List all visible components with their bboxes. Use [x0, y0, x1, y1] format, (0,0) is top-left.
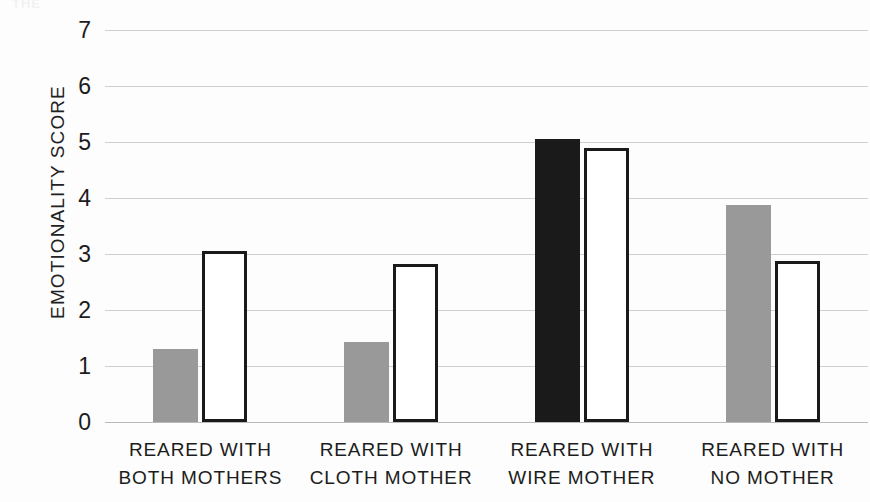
gridline-0: 0	[105, 422, 868, 423]
x-label-line-1: REARED WITH	[129, 439, 272, 460]
x-label-line-1: REARED WITH	[510, 439, 653, 460]
bar-outline-bar-group-1	[202, 251, 247, 422]
x-axis-group-label-4: REARED WITHNO MOTHER	[677, 436, 868, 491]
y-tick-label-0: 0	[78, 411, 91, 434]
x-label-line-2: NO MOTHER	[677, 464, 868, 492]
y-tick-label-7: 7	[78, 19, 91, 42]
x-label-line-2: BOTH MOTHERS	[105, 464, 296, 492]
y-tick-label-3: 3	[78, 243, 91, 266]
x-label-line-1: REARED WITH	[701, 439, 844, 460]
bar-filled-bar-group-4	[726, 205, 771, 422]
gridline-7: 7	[105, 30, 868, 31]
bar-filled-bar-group-3	[535, 139, 580, 422]
x-axis-group-label-1: REARED WITHBOTH MOTHERS	[105, 436, 296, 491]
bar-chart-figure: THE EMOTIONALITY SCORE 01234567 REARED W…	[0, 0, 870, 502]
y-tick-label-6: 6	[78, 75, 91, 98]
y-tick-label-4: 4	[78, 187, 91, 210]
x-axis-labels: REARED WITHBOTH MOTHERSREARED WITHCLOTH …	[105, 436, 868, 498]
x-label-line-2: CLOTH MOTHER	[296, 464, 487, 492]
bar-filled-bar-group-1	[153, 349, 198, 422]
bar-outline-bar-group-2	[393, 264, 438, 422]
x-axis-group-label-3: REARED WITHWIRE MOTHER	[487, 436, 678, 491]
bar-filled-bar-group-2	[344, 342, 389, 422]
x-axis-group-label-2: REARED WITHCLOTH MOTHER	[296, 436, 487, 491]
x-label-line-1: REARED WITH	[320, 439, 463, 460]
gridline-5: 5	[105, 142, 868, 143]
x-label-line-2: WIRE MOTHER	[487, 464, 678, 492]
plot-area: 01234567	[105, 30, 868, 422]
bar-outline-bar-group-3	[584, 148, 629, 422]
y-tick-label-5: 5	[78, 131, 91, 154]
gridline-6: 6	[105, 86, 868, 87]
y-axis-title: EMOTIONALITY SCORE	[36, 0, 80, 422]
y-tick-label-1: 1	[78, 355, 91, 378]
gridline-4: 4	[105, 198, 868, 199]
bar-outline-bar-group-4	[775, 261, 820, 422]
y-tick-label-2: 2	[78, 299, 91, 322]
